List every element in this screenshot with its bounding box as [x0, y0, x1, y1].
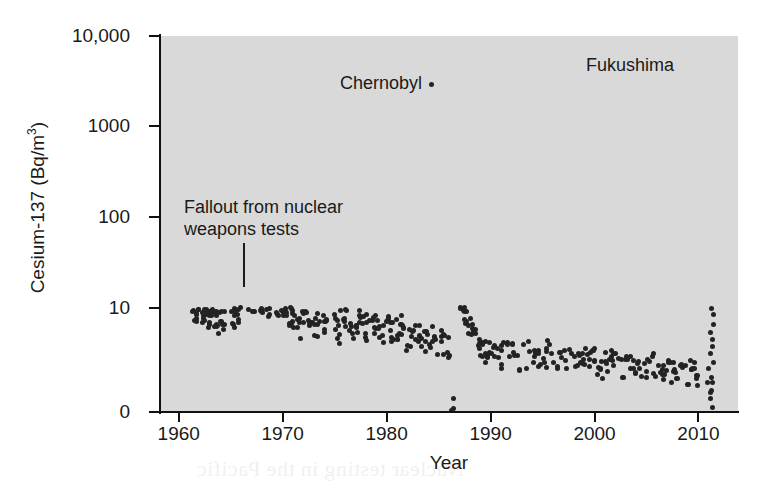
data-point	[711, 360, 716, 365]
data-point	[216, 331, 221, 336]
data-point	[644, 375, 649, 380]
data-point	[399, 332, 404, 337]
data-point	[209, 313, 214, 318]
x-axis-title: Year	[160, 452, 738, 474]
x-axis-tick	[282, 412, 284, 422]
data-point	[375, 318, 380, 323]
data-point	[692, 360, 697, 365]
data-point	[662, 372, 667, 377]
cesium-137-scatter-figure: Cesium-137 (Bq/m3) Year Fallout from nuc…	[0, 0, 764, 494]
y-axis-tick	[149, 216, 160, 218]
y-axis-tick-label: 1000	[0, 116, 142, 135]
data-point	[683, 363, 688, 368]
x-axis-tick-label: 1980	[347, 424, 427, 443]
data-point	[337, 341, 342, 346]
data-point	[515, 353, 520, 358]
data-point	[236, 320, 241, 325]
data-point	[521, 342, 526, 347]
data-point	[628, 354, 633, 359]
data-point	[435, 352, 440, 357]
y-axis-tick	[149, 125, 160, 127]
data-point	[669, 380, 674, 385]
data-point	[473, 331, 478, 336]
x-axis-tick	[697, 412, 699, 422]
data-point	[322, 327, 327, 332]
data-point	[607, 357, 612, 362]
data-point	[373, 326, 378, 331]
data-point	[252, 309, 257, 314]
data-point	[364, 338, 369, 343]
data-point	[232, 325, 237, 330]
data-point	[364, 312, 369, 317]
data-point	[710, 337, 715, 342]
data-point	[637, 366, 642, 371]
data-point	[549, 351, 554, 356]
data-point	[706, 366, 711, 371]
data-point	[710, 380, 715, 385]
data-point	[284, 313, 289, 318]
data-point	[487, 340, 492, 345]
data-point	[335, 318, 340, 323]
data-point	[337, 332, 342, 337]
data-point	[650, 354, 655, 359]
data-point	[380, 333, 385, 338]
data-point	[710, 405, 715, 410]
data-point	[580, 351, 585, 356]
data-point	[388, 328, 393, 333]
data-point	[708, 396, 713, 401]
annotation-chernobyl: Chernobyl	[340, 72, 434, 94]
y-axis-tick	[149, 307, 160, 309]
data-point	[344, 308, 349, 313]
y-axis-line	[159, 34, 161, 414]
data-point	[194, 319, 199, 324]
data-point	[673, 370, 678, 375]
data-point	[524, 366, 529, 371]
data-point	[517, 367, 522, 372]
x-axis-tick-label: 1970	[243, 424, 323, 443]
data-point	[694, 376, 699, 381]
data-point	[266, 314, 271, 319]
data-point	[354, 323, 359, 328]
data-point	[399, 313, 404, 318]
data-point	[423, 349, 428, 354]
data-point	[439, 339, 444, 344]
data-point	[295, 325, 300, 330]
data-point	[315, 311, 320, 316]
data-point	[510, 342, 515, 347]
data-point	[298, 336, 303, 341]
data-point	[304, 310, 309, 315]
data-point	[417, 323, 422, 328]
annotation-fallout-leader-line	[243, 243, 245, 287]
x-axis-tick	[386, 412, 388, 422]
data-point	[564, 366, 569, 371]
data-point	[544, 365, 549, 370]
y-axis-tick	[149, 411, 160, 413]
data-point	[214, 324, 219, 329]
data-point	[635, 361, 640, 366]
data-point	[611, 351, 616, 356]
data-point	[395, 337, 400, 342]
data-point	[290, 319, 295, 324]
y-axis-tick-label: 10	[0, 298, 142, 317]
data-point	[505, 342, 510, 347]
y-axis-tick-label: 100	[0, 207, 142, 226]
data-point	[324, 318, 329, 323]
y-axis-tick-label: 10,000	[0, 26, 142, 45]
data-point	[695, 383, 700, 388]
data-point	[675, 376, 680, 381]
data-point	[446, 335, 451, 340]
y-axis-tick-label: 0	[0, 402, 142, 421]
data-point	[221, 327, 226, 332]
data-point	[430, 324, 435, 329]
data-point	[355, 330, 360, 335]
data-point	[582, 362, 587, 367]
data-point	[711, 322, 716, 327]
data-point	[710, 344, 715, 349]
data-point	[592, 346, 597, 351]
data-point	[611, 363, 616, 368]
data-point	[411, 328, 416, 333]
x-axis-tick	[178, 412, 180, 422]
data-point	[711, 312, 716, 317]
annotation-marker-dot	[429, 82, 434, 87]
data-point	[235, 312, 240, 317]
